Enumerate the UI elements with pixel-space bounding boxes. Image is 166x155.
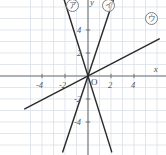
x-axis-label: x	[154, 65, 158, 74]
x-tick-label-4: 4	[131, 81, 135, 90]
y-tick-label-4: 4	[77, 26, 81, 35]
y-tick-label-neg2: -2	[74, 95, 81, 104]
axes-group	[0, 0, 166, 155]
y-axis-label: y	[90, 0, 94, 7]
y-tick-label-2: 2	[77, 49, 81, 58]
line-annotation-u: ウ	[145, 12, 158, 25]
gridlines-group	[0, 0, 166, 155]
x-tick-label-neg4: -4	[36, 81, 43, 90]
y-tick-label-neg4: -4	[74, 118, 81, 127]
origin-label: O	[91, 78, 98, 87]
graph-canvas	[0, 0, 166, 155]
x-tick-label-2: 2	[108, 81, 112, 90]
x-tick-label-neg2: -2	[59, 81, 66, 90]
coordinate-graph-figure: -4 -2 2 4 4 2 -2 -4 O x y ア イ ウ	[0, 0, 166, 155]
